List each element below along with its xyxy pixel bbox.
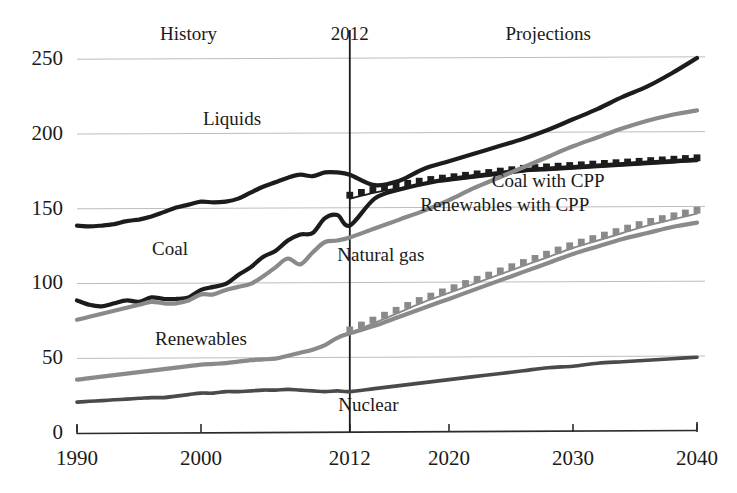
- series-marker: [647, 157, 654, 164]
- series-marker: [439, 289, 446, 296]
- y-tick-150: 150: [32, 196, 64, 220]
- series-marker: [613, 159, 620, 166]
- annotation-history: History: [160, 23, 218, 44]
- series-marker: [462, 172, 469, 179]
- series-marker: [416, 297, 423, 304]
- gridline-100: [77, 281, 705, 283]
- series-marker: [485, 272, 492, 279]
- series-marker: [358, 322, 365, 329]
- series-marker: [346, 192, 353, 199]
- series-marker: [346, 327, 353, 334]
- series-line: [77, 58, 697, 226]
- series-marker: [555, 247, 562, 254]
- series-marker: [508, 263, 515, 270]
- series-marker: [566, 242, 573, 249]
- series-lines: [77, 58, 700, 402]
- series-marker: [474, 171, 481, 178]
- series-marker: [474, 276, 481, 283]
- series-marker: [427, 176, 434, 183]
- series-marker: [578, 161, 585, 168]
- series-marker: [636, 221, 643, 228]
- series-marker: [543, 251, 550, 258]
- series-marker: [682, 155, 689, 162]
- y-tick-250: 250: [32, 46, 64, 70]
- y-tick-100: 100: [32, 270, 64, 294]
- series-label-coal: Coal: [152, 238, 188, 259]
- series-marker: [566, 162, 573, 169]
- series-marker: [659, 157, 666, 164]
- x-tick-1990: 1990: [56, 446, 98, 470]
- series-label-renewables-with-cpp: Renewables with CPP: [420, 194, 589, 215]
- series-marker: [427, 293, 434, 300]
- series-marker: [624, 159, 631, 166]
- y-axis-tick-labels: 050100150200250: [32, 46, 64, 444]
- x-tick-2012: 2012: [329, 446, 371, 470]
- series-marker: [659, 215, 666, 222]
- series-marker: [682, 210, 689, 217]
- series-marker: [497, 268, 504, 275]
- series-natural-gas: [77, 110, 697, 319]
- series-marker: [381, 312, 388, 319]
- x-axis-tick-labels: 199020002012202020302040: [56, 446, 718, 470]
- x-tick-2020: 2020: [428, 446, 470, 470]
- series-label-renewables: Renewables: [155, 328, 247, 349]
- series-marker: [555, 163, 562, 170]
- period-annotations: History2012Projections: [160, 23, 591, 44]
- series-marker: [532, 255, 539, 262]
- series-marker: [358, 189, 365, 196]
- chart-canvas: 050100150200250 199020002012202020302040…: [0, 0, 737, 493]
- series-marker: [601, 232, 608, 239]
- annotation-projections: Projections: [505, 23, 591, 44]
- energy-consumption-chart: 050100150200250 199020002012202020302040…: [0, 0, 737, 493]
- x-tick-2030: 2030: [552, 446, 594, 470]
- gridline-250: [77, 57, 705, 59]
- series-marker: [370, 186, 377, 193]
- y-tick-0: 0: [53, 420, 64, 444]
- series-marker: [404, 302, 411, 309]
- series-marker: [393, 182, 400, 189]
- series-line: [77, 110, 697, 319]
- gridline-50: [77, 356, 705, 358]
- series-marker: [636, 158, 643, 165]
- y-tick-200: 200: [32, 121, 64, 145]
- series-marker: [624, 225, 631, 232]
- series-label-natural-gas: Natural gas: [337, 244, 424, 265]
- series-marker: [416, 178, 423, 185]
- x-axis-line: [77, 431, 697, 434]
- series-marker: [647, 218, 654, 225]
- series-label-coal-with-cpp: Coal with CPP: [492, 170, 605, 191]
- series-label-nuclear: Nuclear: [338, 394, 399, 415]
- series-label-liquids: Liquids: [203, 108, 261, 129]
- series-marker: [589, 161, 596, 168]
- series-marker: [601, 160, 608, 167]
- series-marker: [694, 207, 701, 214]
- series-marker: [694, 154, 701, 161]
- series-marker: [370, 317, 377, 324]
- x-axis: [77, 422, 697, 434]
- series-marker: [578, 239, 585, 246]
- series-liquids: [77, 58, 697, 226]
- series-marker: [462, 280, 469, 287]
- series-marker: [439, 175, 446, 182]
- x-tick-2000: 2000: [180, 446, 222, 470]
- series-marker: [589, 235, 596, 242]
- series-marker: [613, 228, 620, 235]
- annotation-divider-year: 2012: [331, 23, 369, 44]
- series-marker: [404, 180, 411, 187]
- series-marker: [393, 307, 400, 314]
- series-marker: [671, 156, 678, 163]
- series-marker: [520, 259, 527, 266]
- series-marker: [381, 184, 388, 191]
- y-tick-50: 50: [42, 345, 63, 369]
- series-marker: [671, 212, 678, 219]
- series-marker: [451, 284, 458, 291]
- x-tick-2040: 2040: [676, 446, 718, 470]
- series-marker: [451, 173, 458, 180]
